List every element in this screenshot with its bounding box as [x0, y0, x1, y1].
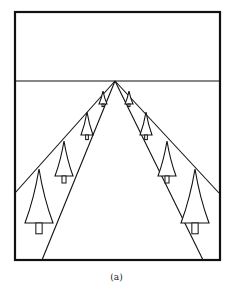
tree-icon	[81, 112, 93, 140]
tree-crown	[81, 112, 93, 135]
tree-crown	[158, 141, 176, 176]
tree-icon	[55, 141, 73, 183]
tree-trunk	[102, 104, 104, 107]
right-road-edge-line	[115, 81, 203, 260]
tree-icon	[158, 141, 176, 183]
perspective-road-diagram	[0, 0, 233, 294]
tree-trunk	[62, 176, 66, 183]
tree-trunk	[192, 223, 198, 234]
trees	[25, 91, 209, 234]
figure-caption: (a)	[0, 272, 233, 282]
tree-icon	[25, 169, 53, 234]
left-road-edge-line	[42, 81, 115, 260]
perspective-lines	[15, 81, 220, 260]
tree-trunk	[165, 176, 169, 183]
tree-trunk	[86, 135, 89, 140]
tree-trunk	[128, 104, 130, 107]
tree-icon	[140, 112, 152, 140]
tree-crown	[55, 141, 73, 176]
tree-crown	[140, 112, 152, 135]
tree-icon	[99, 91, 107, 107]
tree-trunk	[36, 223, 42, 234]
tree-trunk	[145, 135, 148, 140]
